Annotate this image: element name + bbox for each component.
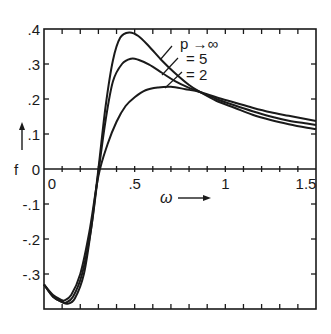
x-tick-label: 0 (48, 175, 56, 192)
y-tick-label: -.2 (22, 231, 40, 248)
legend: p →∞= 5= 2 (160, 35, 219, 88)
legend-entry: = 2 (186, 66, 207, 83)
y-tick-label: -.1 (22, 196, 40, 213)
y-axis-label: f (14, 161, 19, 178)
y-tick-label: .3 (27, 56, 40, 73)
tick-labels: .4.3.2.10-.1-.2-.30.511.5 (22, 21, 316, 283)
curve-1 (44, 58, 316, 303)
y-tick-label: -.3 (22, 266, 40, 283)
legend-entry: = 5 (186, 50, 207, 67)
x-tick-label: .5 (128, 175, 141, 192)
x-tick-label: 1 (221, 175, 229, 192)
y-tick-label: .4 (27, 21, 40, 38)
y-tick-label: 0 (32, 161, 40, 178)
up-arrow-icon (19, 122, 25, 130)
y-tick-label: .2 (27, 91, 40, 108)
chart: .4.3.2.10-.1-.2-.30.511.5 p →∞= 5= 2 fω (0, 0, 331, 334)
x-tick-label: 1.5 (296, 175, 317, 192)
y-tick-label: .1 (27, 126, 40, 143)
x-axis-label: ω (160, 189, 172, 206)
right-arrow-icon (203, 195, 211, 201)
